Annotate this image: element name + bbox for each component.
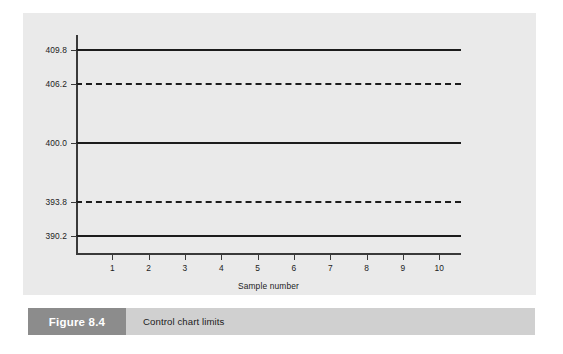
y-tick-label-wrap: 400.0 (23, 138, 67, 148)
x-tick-8 (367, 254, 368, 260)
control-line-upper-warning-limit (76, 83, 461, 85)
y-tick-label-wrap: 393.8 (23, 197, 67, 207)
y-tick-409.8 (71, 50, 77, 51)
x-tick-3 (185, 254, 186, 260)
y-tick-label-400.0: 400.0 (27, 138, 67, 148)
x-tick-9 (403, 254, 404, 260)
x-tick-label-3: 3 (174, 263, 196, 273)
y-tick-label-wrap: 390.2 (23, 231, 67, 241)
y-tick-label-393.8: 393.8 (27, 197, 67, 207)
y-tick-label-390.2: 390.2 (27, 231, 67, 241)
x-tick-4 (221, 254, 222, 260)
figure-caption-text: Control chart limits (143, 316, 224, 327)
y-tick-label-wrap: 409.8 (23, 45, 67, 55)
x-tick-label-6: 6 (283, 263, 305, 273)
figure-number-box: Figure 8.4 (28, 308, 126, 335)
x-axis-title-text: Sample number (238, 281, 299, 291)
x-tick-7 (330, 254, 331, 260)
y-tick-390.2 (71, 236, 77, 237)
x-tick-10 (439, 254, 440, 260)
figure-caption-bar: Figure 8.4 Control chart limits (28, 308, 535, 335)
x-tick-6 (294, 254, 295, 260)
x-tick-label-8: 8 (356, 263, 378, 273)
x-tick-1 (112, 254, 113, 260)
x-tick-label-2: 2 (138, 263, 160, 273)
y-tick-label-wrap: 406.2 (23, 79, 67, 89)
y-axis-line (76, 35, 78, 254)
control-chart-plot: 390.2393.8400.0406.2409.8 12345678910 Sa… (23, 13, 536, 295)
figure-panel: 390.2393.8400.0406.2409.8 12345678910 Sa… (23, 13, 536, 295)
y-tick-406.2 (71, 84, 77, 85)
x-axis-title: Sample number (23, 281, 536, 291)
control-line-lower-action-limit (76, 235, 461, 237)
x-tick-2 (149, 254, 150, 260)
y-tick-label-406.2: 406.2 (27, 79, 67, 89)
control-line-centre-line (76, 142, 461, 144)
x-tick-label-10: 10 (428, 263, 450, 273)
y-tick-400.0 (71, 143, 77, 144)
y-tick-393.8 (71, 202, 77, 203)
x-tick-label-5: 5 (247, 263, 269, 273)
figure-number-label: Figure 8.4 (49, 316, 105, 328)
control-line-lower-warning-limit (76, 201, 461, 203)
y-tick-label-409.8: 409.8 (27, 45, 67, 55)
x-tick-label-4: 4 (210, 263, 232, 273)
x-tick-label-1: 1 (101, 263, 123, 273)
x-tick-5 (258, 254, 259, 260)
control-line-upper-action-limit (76, 49, 461, 51)
x-tick-label-7: 7 (319, 263, 341, 273)
x-tick-label-9: 9 (392, 263, 414, 273)
